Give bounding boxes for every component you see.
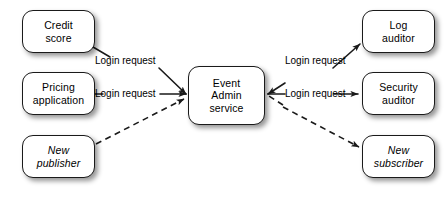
node-event-admin-service[interactable]: Event Admin service [188,66,265,125]
node-credit-score[interactable]: Credit score [22,10,95,53]
node-log-auditor-line1: Log [382,19,415,32]
flow-diagram: Login request Login request Login reques… [0,0,446,197]
node-new-subscriber[interactable]: New subscriber [362,135,435,178]
node-event-admin-service-line1: Event [210,77,244,90]
node-log-auditor[interactable]: Log auditor [362,10,435,53]
node-log-auditor-text: Log auditor [382,19,415,44]
node-security-auditor-line2: auditor [379,94,418,107]
node-credit-score-text: Credit score [44,19,73,44]
node-new-subscriber-line1: New [374,144,423,157]
edge-admin-fan-lower [269,96,283,105]
node-pricing-application-line1: Pricing [33,81,84,94]
node-pricing-application-line2: application [33,94,84,107]
node-new-publisher-line1: New [37,144,81,157]
node-event-admin-service-text: Event Admin service [210,77,244,115]
edge-label-admin-to-log: Login request [285,55,346,66]
edge-admin-fan-upper [268,83,285,94]
edge-label-pricing-to-admin: Login request [95,88,156,99]
node-new-publisher-text: New publisher [37,144,81,169]
edge-admin-to-subscriber [283,107,359,147]
node-pricing-application-text: Pricing application [33,81,84,106]
edge-label-admin-to-security: Login request [285,88,346,99]
node-event-admin-service-line3: service [210,102,244,115]
node-credit-score-line2: score [44,32,73,45]
node-pricing-application[interactable]: Pricing application [22,72,95,115]
node-new-publisher-line2: publisher [37,157,81,170]
node-security-auditor-line1: Security [379,81,418,94]
edge-credit-to-admin [159,68,186,94]
node-event-admin-service-line2: Admin [210,89,244,102]
node-security-auditor-text: Security auditor [379,81,418,106]
node-new-subscriber-text: New subscriber [374,144,423,169]
node-credit-score-line1: Credit [44,19,73,32]
node-new-subscriber-line2: subscriber [374,157,423,170]
edge-publisher-to-admin [96,99,184,144]
edge-label-credit-to-admin: Login request [95,55,156,66]
node-new-publisher[interactable]: New publisher [22,135,95,178]
node-security-auditor[interactable]: Security auditor [362,72,435,115]
node-log-auditor-line2: auditor [382,32,415,45]
